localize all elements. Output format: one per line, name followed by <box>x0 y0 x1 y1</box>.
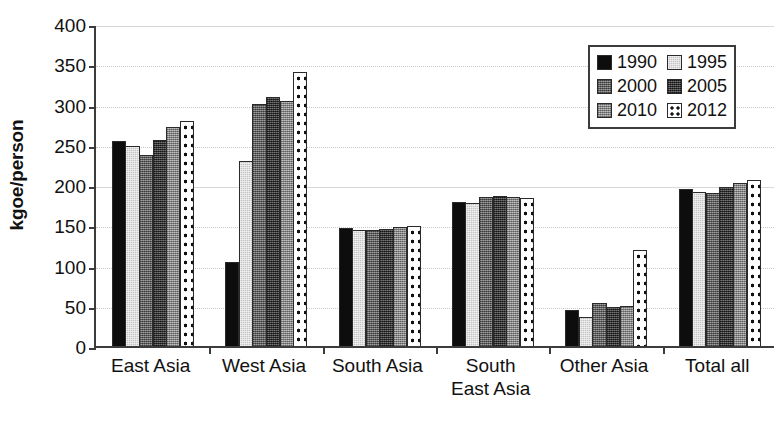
bar-group-west-asia <box>209 26 322 346</box>
bar-1990-other-asia[interactable] <box>565 310 579 346</box>
bar-1995-south-east-asia[interactable] <box>465 203 479 346</box>
bar-2012-west-asia[interactable] <box>293 72 307 347</box>
bar-2000-other-asia[interactable] <box>592 303 606 346</box>
bar-2012-south-asia[interactable] <box>407 226 421 346</box>
y-axis-tick-label: 200 <box>34 176 86 198</box>
bar-2005-east-asia[interactable] <box>153 140 167 346</box>
y-axis-tick-label: 400 <box>34 15 86 37</box>
x-axis-tick-mark <box>663 346 665 354</box>
bar-1990-west-asia[interactable] <box>225 262 239 346</box>
x-axis-tick-mark <box>549 346 551 354</box>
legend-label: 2010 <box>617 100 657 121</box>
y-axis-tick-label: 250 <box>34 136 86 158</box>
legend-swatch-icon-1995 <box>667 55 682 70</box>
y-axis-tick-mark <box>89 268 96 270</box>
x-axis-label-line: East Asia <box>94 354 207 377</box>
legend-item-1990[interactable]: 1990 <box>597 52 657 73</box>
x-axis-label-other-asia: Other Asia <box>547 354 660 377</box>
bar-2010-east-asia[interactable] <box>166 127 180 346</box>
bar-chart: kgoe/person 050100150200250300350400 Eas… <box>0 0 780 423</box>
x-axis-label-south-asia: South Asia <box>321 354 434 377</box>
bar-1990-east-asia[interactable] <box>112 141 126 346</box>
y-axis-title-text: kgoe/person <box>6 120 28 231</box>
x-axis-label-total-all: Total all <box>661 354 774 377</box>
bar-2000-total-all[interactable] <box>706 193 720 346</box>
legend-swatch-icon-2000 <box>597 79 612 94</box>
bar-2000-south-asia[interactable] <box>366 230 380 346</box>
legend-item-2010[interactable]: 2010 <box>597 100 657 121</box>
x-axis-tick-mark <box>209 346 211 354</box>
bar-1995-south-asia[interactable] <box>352 230 366 346</box>
y-axis-tick-mark <box>89 227 96 229</box>
x-axis-label-west-asia: West Asia <box>207 354 320 377</box>
y-axis-tick-label: 50 <box>34 297 86 319</box>
bar-2010-other-asia[interactable] <box>620 306 634 346</box>
bar-2000-east-asia[interactable] <box>139 155 153 346</box>
bar-1990-total-all[interactable] <box>679 189 693 346</box>
legend-item-2005[interactable]: 2005 <box>667 76 727 97</box>
bar-2005-west-asia[interactable] <box>266 97 280 346</box>
bar-2000-south-east-asia[interactable] <box>479 197 493 346</box>
y-axis-tick-label: 0 <box>34 337 86 359</box>
y-axis-tick-mark <box>89 66 96 68</box>
y-axis-tick-mark <box>89 187 96 189</box>
legend-label: 1990 <box>617 52 657 73</box>
y-axis-tick-labels: 050100150200250300350400 <box>34 16 86 348</box>
bar-group-south-east-asia <box>436 26 549 346</box>
legend-swatch-icon-1990 <box>597 55 612 70</box>
y-axis-tick-mark <box>89 26 96 28</box>
legend-label: 1995 <box>687 52 727 73</box>
bar-1990-south-east-asia[interactable] <box>452 202 466 346</box>
bar-2005-south-east-asia[interactable] <box>493 196 507 346</box>
y-axis-tick-mark <box>89 147 96 149</box>
bar-2005-total-all[interactable] <box>719 187 733 346</box>
bar-2005-other-asia[interactable] <box>606 307 620 346</box>
bar-group-east-asia <box>96 26 209 346</box>
legend-item-2012[interactable]: 2012 <box>667 100 727 121</box>
bar-2012-east-asia[interactable] <box>180 121 194 346</box>
bar-2000-west-asia[interactable] <box>252 104 266 346</box>
bar-1995-east-asia[interactable] <box>125 146 139 346</box>
y-axis-tick-mark <box>89 107 96 109</box>
bar-1995-west-asia[interactable] <box>239 161 253 346</box>
x-axis-label-east-asia: East Asia <box>94 354 207 377</box>
x-axis-label-line: East Asia <box>434 377 547 400</box>
legend-item-2000[interactable]: 2000 <box>597 76 657 97</box>
bar-1990-south-asia[interactable] <box>339 228 353 346</box>
bar-1995-total-all[interactable] <box>692 192 706 346</box>
bar-group-south-asia <box>323 26 436 346</box>
y-axis-tick-mark <box>89 348 96 350</box>
x-axis-label-line: Total all <box>661 354 774 377</box>
bar-1995-other-asia[interactable] <box>579 317 593 346</box>
y-axis-tick-label: 150 <box>34 216 86 238</box>
x-axis-label-line: South <box>434 354 547 377</box>
bar-2012-total-all[interactable] <box>747 180 761 346</box>
legend: 199019952000200520102012 <box>588 45 736 129</box>
bar-2012-other-asia[interactable] <box>633 250 647 346</box>
legend-label: 2005 <box>687 76 727 97</box>
x-axis-label-line: Other Asia <box>547 354 660 377</box>
legend-swatch-icon-2010 <box>597 103 612 118</box>
y-axis-tick-mark <box>89 308 96 310</box>
bar-2010-south-asia[interactable] <box>393 227 407 346</box>
x-axis-label-line: West Asia <box>207 354 320 377</box>
x-axis-category-labels: East AsiaWest AsiaSouth AsiaSouthEast As… <box>94 354 774 420</box>
y-axis-tick-label: 350 <box>34 55 86 77</box>
x-axis-label-south-east-asia: SouthEast Asia <box>434 354 547 400</box>
x-axis-tick-mark <box>436 346 438 354</box>
x-axis-label-line: South Asia <box>321 354 434 377</box>
y-axis-tick-label: 300 <box>34 96 86 118</box>
legend-swatch-icon-2012 <box>667 103 682 118</box>
bar-2010-west-asia[interactable] <box>280 101 294 346</box>
bar-2010-total-all[interactable] <box>733 183 747 346</box>
y-axis-title: kgoe/person <box>2 0 32 350</box>
bar-2005-south-asia[interactable] <box>379 229 393 346</box>
x-axis-tick-mark <box>323 346 325 354</box>
legend-swatch-icon-2005 <box>667 79 682 94</box>
bar-2012-south-east-asia[interactable] <box>520 198 534 346</box>
legend-label: 2000 <box>617 76 657 97</box>
bar-2010-south-east-asia[interactable] <box>506 197 520 346</box>
legend-label: 2012 <box>687 100 727 121</box>
y-axis-tick-label: 100 <box>34 257 86 279</box>
legend-item-1995[interactable]: 1995 <box>667 52 727 73</box>
